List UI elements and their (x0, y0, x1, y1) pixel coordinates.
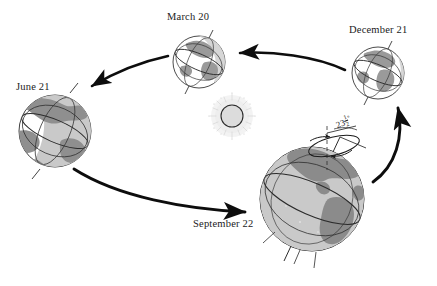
globe-september (254, 126, 371, 268)
axis-north-march (209, 30, 213, 38)
label-march-20: March 20 (167, 11, 209, 22)
tilt-leader-lower (340, 137, 366, 148)
arrow-december-to-march (240, 53, 345, 70)
axis-north-september (333, 137, 340, 152)
meridian-tick-b (314, 252, 316, 268)
globe-december (349, 41, 407, 105)
arrow-march-to-june (92, 56, 168, 86)
axis-south-june (32, 169, 40, 179)
sun (208, 92, 255, 139)
sun-disc (221, 105, 243, 127)
label-december-21: December 21 (349, 24, 407, 35)
label-september-22: September 22 (193, 218, 253, 229)
arrow-june-to-september (74, 169, 245, 212)
arrow-september-to-december (373, 108, 400, 182)
diagram-canvas (0, 0, 437, 286)
meridian-tick-a (294, 250, 300, 264)
label-june-21: June 21 (16, 81, 50, 92)
globe-march (170, 30, 228, 94)
axis-north-december (388, 41, 392, 49)
meridian-tick-c (263, 232, 275, 243)
axis-north-june (70, 83, 78, 93)
tilt-denominator: 2 (345, 121, 351, 128)
axis-south-december (364, 97, 368, 105)
axis-south-march (185, 86, 189, 94)
orbit-diagram: March 20 December 21 June 21 September 2… (0, 0, 437, 286)
axis-south-september (284, 246, 291, 261)
